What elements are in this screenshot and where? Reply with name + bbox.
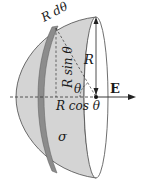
surface-charge-label: σ	[58, 129, 68, 144]
field-arrow-head-icon	[128, 94, 136, 100]
axial-distance-label: R cos θ	[55, 99, 101, 113]
ring-radius-label: R sin θ	[61, 46, 75, 89]
field-label: E	[110, 81, 120, 96]
hemisphere-diagram: R dθ R R sin θ θ R cos θ E σ	[0, 0, 146, 189]
radius-label: R	[83, 52, 94, 67]
angle-label: θ	[74, 82, 82, 96]
ring-width-label: R dθ	[38, 0, 71, 25]
